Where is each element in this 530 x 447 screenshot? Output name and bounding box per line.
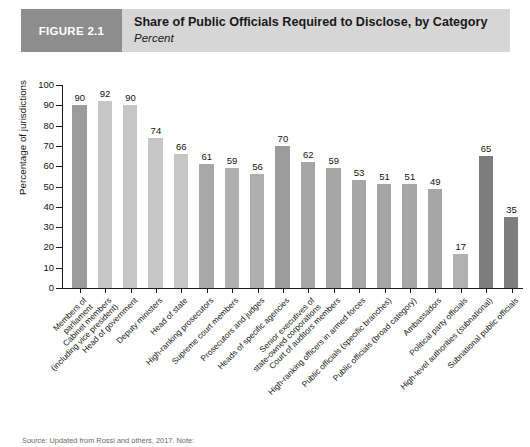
y-axis-tick-label: 70 (32, 140, 54, 151)
bar[interactable] (199, 164, 213, 288)
y-axis-tick (56, 166, 62, 167)
y-axis-tick (56, 146, 62, 147)
x-axis-tick (156, 289, 157, 293)
bar[interactable] (402, 184, 416, 288)
y-axis-tick (56, 85, 62, 86)
x-axis-category-labels: Members ofparliamentCabinet members(incl… (0, 292, 530, 422)
x-axis-tick (334, 289, 335, 293)
x-axis-tick (461, 289, 462, 293)
y-axis-tick (56, 247, 62, 248)
figure-header-band: FIGURE 2.1 Share of Public Officials Req… (21, 9, 510, 52)
x-axis-tick (359, 289, 360, 293)
bar-value-label: 35 (499, 204, 524, 215)
x-axis-tick (512, 289, 513, 293)
y-axis-tick (56, 207, 62, 208)
bar-group[interactable]: 70 (270, 85, 295, 288)
bar-group[interactable]: 65 (473, 85, 498, 288)
bar[interactable] (504, 217, 518, 288)
bar-value-label: 53 (346, 167, 371, 178)
y-axis-tick (56, 187, 62, 188)
y-axis-tick-label: 80 (32, 120, 54, 131)
x-axis-tick (410, 289, 411, 293)
x-axis-tick (308, 289, 309, 293)
bar[interactable] (301, 162, 315, 288)
bar[interactable] (72, 105, 86, 288)
bar-value-label: 90 (67, 92, 92, 103)
x-axis-tick (385, 289, 386, 293)
bar[interactable] (123, 105, 137, 288)
bar-group[interactable]: 51 (372, 85, 397, 288)
bar-group[interactable]: 49 (423, 85, 448, 288)
bar-value-label: 65 (473, 143, 498, 154)
bar[interactable] (275, 146, 289, 288)
bar-value-label: 51 (397, 171, 422, 182)
bar[interactable] (377, 184, 391, 288)
bar[interactable] (479, 156, 493, 288)
y-axis-tick (56, 105, 62, 106)
bar-value-label: 51 (372, 171, 397, 182)
bar-value-label: 70 (270, 133, 295, 144)
bar[interactable] (453, 254, 467, 289)
x-axis-tick (105, 289, 106, 293)
bar-group[interactable]: 90 (67, 85, 92, 288)
bar-value-label: 62 (296, 149, 321, 160)
x-axis-tick (283, 289, 284, 293)
source-note: Source: Updated from Rossi and others, 2… (22, 436, 422, 446)
bar-series: 909290746661595670625953515149176535 (62, 85, 523, 288)
y-axis-tick-label: 40 (32, 201, 54, 212)
figure-subtitle: Percent (134, 31, 510, 46)
bar-value-label: 66 (169, 141, 194, 152)
bar-group[interactable]: 92 (92, 85, 117, 288)
bar-value-label: 59 (219, 155, 244, 166)
x-axis-tick (486, 289, 487, 293)
y-axis-tick-label: 100 (32, 79, 54, 90)
bar-value-label: 90 (118, 92, 143, 103)
y-axis-tick-label: 10 (32, 262, 54, 273)
bar-value-label: 61 (194, 151, 219, 162)
bar-group[interactable]: 56 (245, 85, 270, 288)
bar-group[interactable]: 61 (194, 85, 219, 288)
y-axis-title: Percentage of jurisdictions (17, 43, 28, 233)
bar[interactable] (148, 138, 162, 288)
y-axis-tick-label: 20 (32, 241, 54, 252)
x-axis-tick (207, 289, 208, 293)
bar[interactable] (352, 180, 366, 288)
bar[interactable] (98, 101, 112, 288)
bar-group[interactable]: 51 (397, 85, 422, 288)
bar[interactable] (225, 168, 239, 288)
y-axis-tick-label: 90 (32, 99, 54, 110)
x-axis-tick (258, 289, 259, 293)
bar[interactable] (326, 168, 340, 288)
figure-number-badge: FIGURE 2.1 (21, 9, 122, 52)
bar-value-label: 17 (448, 241, 473, 252)
y-axis-tick (56, 227, 62, 228)
x-axis-tick (80, 289, 81, 293)
y-axis-tick-labels: 0102030405060708090100 (26, 85, 54, 289)
bar-group[interactable]: 74 (143, 85, 168, 288)
x-axis-tick (181, 289, 182, 293)
bar-value-label: 92 (92, 88, 117, 99)
bar-group[interactable]: 90 (118, 85, 143, 288)
bar[interactable] (250, 174, 264, 288)
bar-value-label: 49 (423, 176, 448, 187)
bar-group[interactable]: 59 (219, 85, 244, 288)
bar-group[interactable]: 62 (296, 85, 321, 288)
bar-value-label: 74 (143, 125, 168, 136)
bar[interactable] (174, 154, 188, 288)
bar-group[interactable]: 53 (346, 85, 371, 288)
bar[interactable] (428, 189, 442, 288)
y-axis-tick (56, 268, 62, 269)
x-axis-tick (131, 289, 132, 293)
bar-group[interactable]: 35 (499, 85, 524, 288)
bar-value-label: 56 (245, 161, 270, 172)
bar-group[interactable]: 59 (321, 85, 346, 288)
bar-group[interactable]: 17 (448, 85, 473, 288)
y-axis-tick-label: 50 (32, 181, 54, 192)
figure-title-block: Share of Public Officials Required to Di… (122, 9, 510, 52)
bar-group[interactable]: 66 (169, 85, 194, 288)
x-axis-tick (435, 289, 436, 293)
y-axis-tick (56, 126, 62, 127)
bar-value-label: 59 (321, 155, 346, 166)
x-axis-tick (232, 289, 233, 293)
y-axis-tick-label: 60 (32, 160, 54, 171)
